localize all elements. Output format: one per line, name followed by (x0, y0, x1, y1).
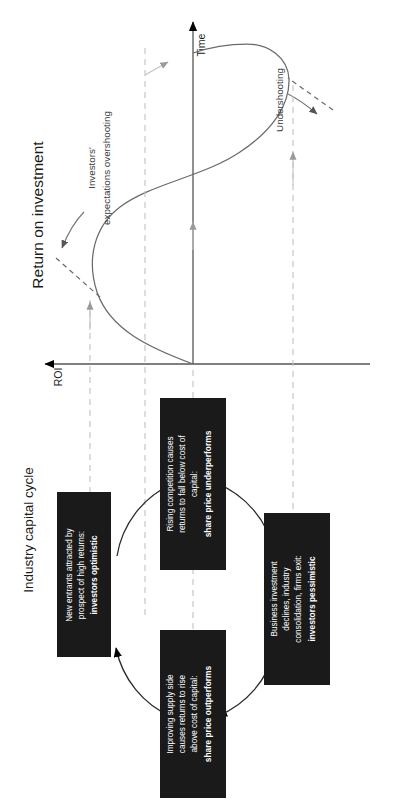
time-axis-label: Time (195, 33, 207, 56)
cycle-box-business-decline-bold: investors pessimistic (307, 556, 317, 642)
cycle-box-new-entrants-line1: New entrants attracted by (65, 527, 74, 621)
cycle-box-improving-supply-bold: share price outperforms (203, 665, 213, 762)
cycle-box-business-decline-line2: declines, industry (282, 566, 291, 630)
cycle-box-business-decline-line3: consolidation, firms exit: (294, 555, 303, 642)
cycle-box-business-decline-line1: Business investment (270, 561, 279, 637)
cycle-box-improving-supply-line1: Improving supply side (166, 674, 175, 754)
cycle-title: Industry capital cycle (21, 467, 36, 592)
cycle-box-new-entrants-line2: prospect of high returns: (77, 531, 86, 619)
cycle-box-rising-competition-line1: Rising competition causes (166, 436, 175, 531)
cycle-box-rising-competition-line2: returns to fall below cost of (178, 435, 187, 533)
cycle-box-rising-competition[interactable]: Rising competition causes returns to fal… (160, 398, 226, 570)
cycle-box-improving-supply[interactable]: Improving supply side causes returns to … (160, 630, 226, 798)
cycle-box-rising-competition-line3: capital: (190, 471, 199, 497)
undershooting-label: Undershooting (274, 68, 285, 132)
chart-title: Return on investment (29, 141, 46, 289)
cycle-box-business-decline[interactable]: Business investment declines, industry c… (264, 513, 330, 685)
cycle-box-new-entrants-bold: investors optimistic (89, 535, 99, 614)
cycle-box-improving-supply-line3: above cost of capital: (190, 676, 199, 753)
cycle-box-new-entrants[interactable]: New entrants attracted by prospect of hi… (57, 492, 111, 657)
overshooting-label-line2: expectations overshooting (101, 111, 112, 225)
rotated-diagram: Return on investment ROI Time Investors'… (0, 0, 393, 803)
overshooting-label-line1: Investors' (86, 147, 97, 189)
cycle-box-improving-supply-line2: causes returns to rise (178, 674, 187, 753)
figure-canvas: Return on investment ROI Time Investors'… (0, 0, 393, 803)
roi-axis-label: ROI (52, 368, 64, 387)
cycle-box-rising-competition-bold: share price underperforms (203, 430, 213, 537)
